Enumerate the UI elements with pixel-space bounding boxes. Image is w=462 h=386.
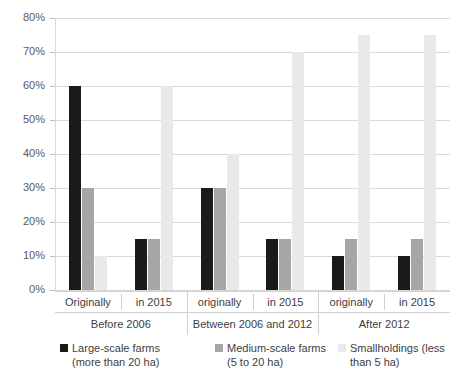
bar-medium-4 <box>345 239 357 290</box>
y-axis-tick-label: 30% <box>0 182 45 193</box>
bar-large-5 <box>398 256 410 290</box>
cluster-label-4: originally <box>318 291 384 313</box>
y-axis-tick-label: 10% <box>0 250 45 261</box>
bar-small-5 <box>424 35 436 290</box>
legend-label-0: Large-scale farms (more than 20 ha) <box>72 341 160 369</box>
bar-small-4 <box>358 35 370 290</box>
bar-small-3 <box>292 52 304 290</box>
legend-item-0: Large-scale farms (more than 20 ha) <box>60 341 160 369</box>
y-axis-tick-label: 80% <box>0 12 45 23</box>
y-axis-tick-label: 0% <box>0 284 45 295</box>
cluster-label-0: Originally <box>55 291 121 313</box>
cluster-label-row: Originallyin 2015originallyin 2015origin… <box>55 291 450 313</box>
medium-scale-swatch <box>215 344 223 352</box>
legend-label-2: Smallholdings (less than 5 ha) <box>350 341 445 369</box>
plot-area <box>55 18 450 290</box>
group-label-row: Before 2006Between 2006 and 2012After 20… <box>55 313 450 335</box>
y-axis-tick-label: 50% <box>0 114 45 125</box>
y-axis-tick-label: 40% <box>0 148 45 159</box>
bar-large-2 <box>201 188 213 290</box>
bar-chart: 0%10%20%30%40%50%60%70%80% Originallyin … <box>0 0 462 386</box>
bar-small-0 <box>95 256 107 290</box>
legend-item-1: Medium-scale farms (5 to 20 ha) <box>215 341 326 369</box>
bar-medium-2 <box>214 188 226 290</box>
y-axis-tick-label: 70% <box>0 46 45 57</box>
bar-medium-0 <box>82 188 94 290</box>
legend-item-2: Smallholdings (less than 5 ha) <box>338 341 445 369</box>
cluster-label-3: in 2015 <box>253 291 319 313</box>
bar-small-2 <box>227 154 239 290</box>
cluster-label-5: in 2015 <box>384 291 450 313</box>
group-label-0: Before 2006 <box>55 313 187 335</box>
y-axis-tick-label: 60% <box>0 80 45 91</box>
category-axis: Originallyin 2015originallyin 2015origin… <box>55 291 450 335</box>
large-scale-swatch <box>60 344 68 352</box>
bar-large-3 <box>266 239 278 290</box>
bar-large-4 <box>332 256 344 290</box>
bar-medium-1 <box>148 239 160 290</box>
cluster-label-2: originally <box>187 291 253 313</box>
group-label-1: Between 2006 and 2012 <box>187 313 319 335</box>
y-axis-tick-label: 20% <box>0 216 45 227</box>
legend-label-1: Medium-scale farms (5 to 20 ha) <box>227 341 326 369</box>
group-label-2: After 2012 <box>318 313 450 335</box>
bar-medium-5 <box>411 239 423 290</box>
bar-large-1 <box>135 239 147 290</box>
cluster-label-1: in 2015 <box>121 291 187 313</box>
smallholdings-swatch <box>338 344 346 352</box>
bar-large-0 <box>69 86 81 290</box>
bar-medium-3 <box>279 239 291 290</box>
chart-legend: Large-scale farms (more than 20 ha)Mediu… <box>0 341 462 381</box>
bar-small-1 <box>161 86 173 290</box>
